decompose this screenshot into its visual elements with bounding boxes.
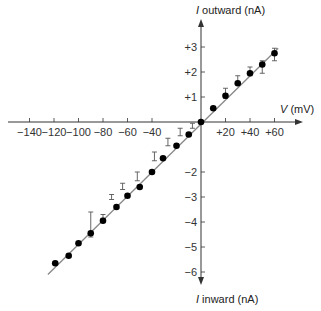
data-point: [124, 192, 131, 199]
x-axis-title: V (mV): [280, 103, 314, 115]
x-tick-label: +20: [216, 126, 235, 138]
y-tick-label: −5: [184, 241, 197, 253]
data-point: [271, 50, 278, 57]
y-tick-label: +2: [184, 66, 197, 78]
data-point: [87, 230, 94, 237]
x-tick-label: −60: [118, 126, 137, 138]
y-tick-label: −3: [184, 191, 197, 203]
x-tick-label: −140: [17, 126, 42, 138]
x-axis-arrow-icon: [295, 119, 303, 125]
tick-labels: −140−120−100−80−60−40+20+40+60+3+2+1−2−3…: [17, 41, 284, 278]
data-point: [65, 252, 72, 259]
y-tick-label: +3: [184, 41, 197, 53]
y-tick-label: +1: [184, 91, 197, 103]
data-point: [113, 204, 120, 211]
data-point: [198, 119, 205, 126]
data-point: [160, 155, 167, 162]
y-tick-label: −6: [184, 266, 197, 278]
x-tick-label: −80: [94, 126, 113, 138]
x-tick-label: −120: [42, 126, 67, 138]
y-axis-title-outward: I outward (nA): [196, 4, 265, 16]
y-tick-label: −2: [184, 166, 197, 178]
data-point: [222, 92, 229, 99]
x-tick-label: −100: [66, 126, 91, 138]
x-tick-label: +40: [241, 126, 260, 138]
y-axis-up-arrow-icon: [198, 19, 204, 27]
data-point: [210, 105, 217, 112]
data-point: [149, 169, 156, 176]
data-point: [173, 142, 180, 149]
data-point: [247, 70, 254, 77]
y-axis-down-arrow-icon: [198, 277, 204, 285]
data-point: [136, 184, 143, 191]
x-tick-label: −40: [143, 126, 162, 138]
data-point: [52, 260, 59, 267]
data-point: [100, 217, 107, 224]
data-point: [185, 131, 192, 138]
y-tick-label: −4: [184, 216, 197, 228]
iv-curve-chart: −140−120−100−80−60−40+20+40+60+3+2+1−2−3…: [0, 0, 321, 311]
data-point: [75, 240, 82, 247]
data-point: [234, 80, 241, 87]
x-tick-label: +60: [265, 126, 284, 138]
y-axis-title-inward: I inward (nA): [196, 293, 258, 305]
data-point: [259, 61, 266, 68]
